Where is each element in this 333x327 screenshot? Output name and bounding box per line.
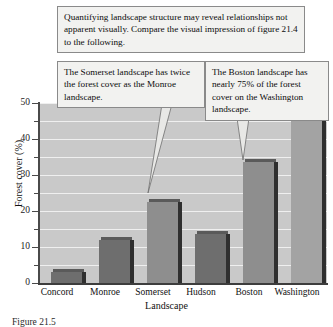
- ytick-20: [32, 211, 38, 212]
- x-axis-line: [38, 283, 328, 285]
- callout-somerset: The Somerset landscape has twice the for…: [57, 61, 205, 108]
- bar-face: [51, 272, 82, 283]
- bar-boston: [243, 162, 274, 283]
- ytick-0: [32, 283, 38, 284]
- bar-side: [226, 234, 230, 283]
- bar-somerset: [147, 202, 178, 283]
- bar-top: [53, 269, 84, 272]
- ytick-5: [34, 265, 38, 266]
- y-axis-title: Forest cover (%): [13, 109, 24, 239]
- bar-face: [243, 162, 274, 283]
- bar-side: [130, 240, 134, 283]
- bar-face: [147, 202, 178, 283]
- bar-concord: [51, 272, 82, 283]
- bar-hudson: [195, 234, 226, 283]
- ytick-35: [34, 157, 38, 158]
- bar-face: [99, 240, 130, 283]
- bar-face: [195, 234, 226, 283]
- ytick-10: [32, 247, 38, 248]
- callout-boston: The Boston landscape has nearly 75% of t…: [205, 61, 329, 121]
- y-axis-line: [38, 102, 40, 284]
- x-axis-title: Landscape: [0, 300, 333, 311]
- bar-top: [101, 237, 132, 240]
- ytick-45: [34, 121, 38, 122]
- ytick-30: [32, 175, 38, 176]
- bar-side: [82, 272, 86, 283]
- xtick-label-washington: Washington: [263, 287, 331, 297]
- bar-top: [245, 159, 276, 162]
- bar-washington: [291, 121, 322, 283]
- bar-monroe: [99, 240, 130, 283]
- bar-side: [274, 162, 278, 283]
- bar-top: [149, 199, 180, 202]
- ytick-label-50: 50: [10, 98, 30, 108]
- bars-layer: [39, 103, 327, 283]
- ytick-25: [34, 193, 38, 194]
- bar-face: [291, 121, 322, 283]
- ytick-label-10: 10: [10, 242, 30, 252]
- ytick-15: [34, 229, 38, 230]
- figure-container: 50 40 30 20 10 0 Concord Monroe Somerset…: [0, 0, 333, 327]
- ytick-50: [32, 103, 38, 104]
- ytick-40: [32, 139, 38, 140]
- bar-side: [178, 202, 182, 283]
- callout-intro: Quantifying landscape structure may reve…: [57, 6, 305, 53]
- figure-caption: Figure 21.5: [12, 317, 56, 327]
- bar-top: [197, 231, 228, 234]
- bar-side: [322, 121, 326, 283]
